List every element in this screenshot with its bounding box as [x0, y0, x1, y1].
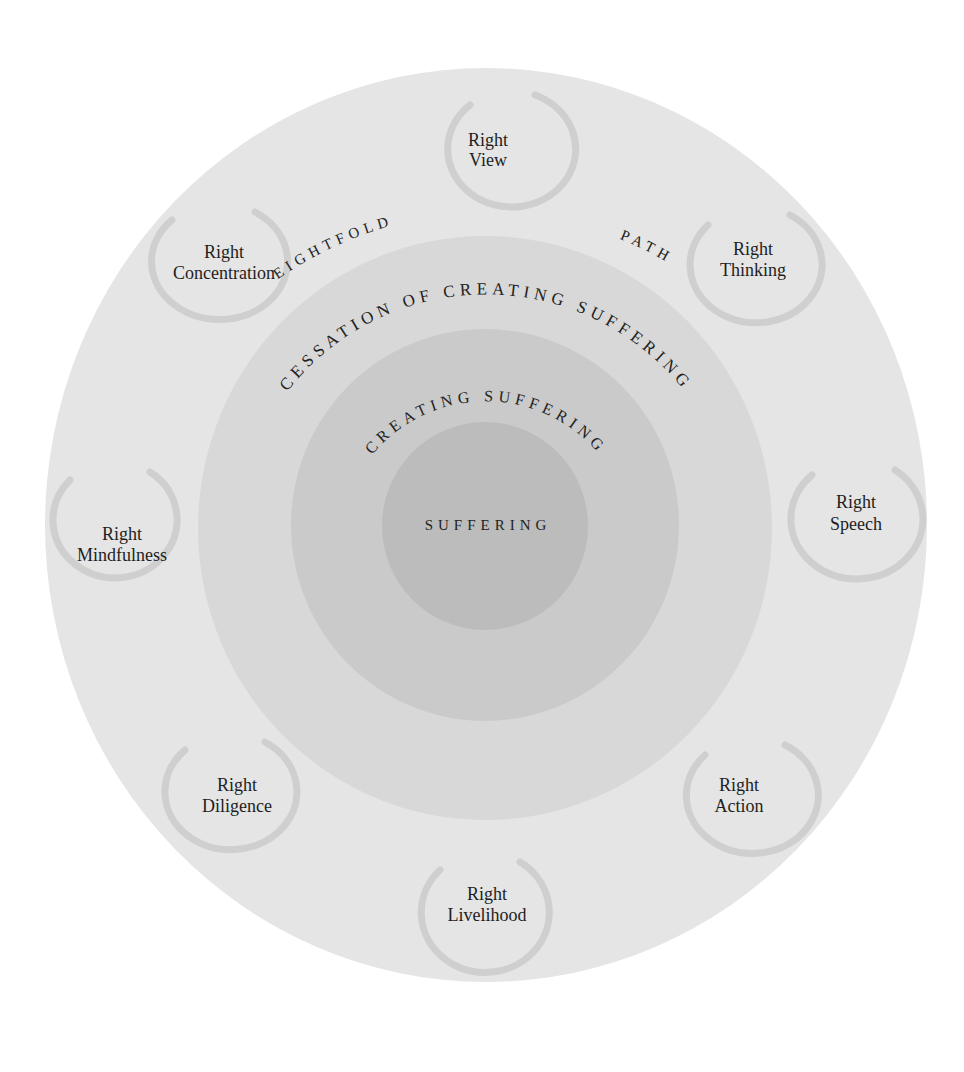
svg-text:Livelihood: Livelihood — [448, 905, 527, 925]
svg-text:View: View — [469, 150, 507, 170]
svg-text:Right: Right — [102, 524, 142, 544]
svg-text:Diligence: Diligence — [202, 796, 272, 816]
svg-text:Concentration: Concentration — [173, 263, 275, 283]
svg-text:Right: Right — [719, 775, 759, 795]
svg-text:Mindfulness: Mindfulness — [77, 545, 167, 565]
eightfold-path-diagram: EIGHTFOLD PATH CESSATION OF CREATING SUF… — [0, 0, 964, 1072]
center-label-suffering: SUFFERING — [425, 517, 552, 533]
svg-text:Right: Right — [733, 239, 773, 259]
svg-text:Right: Right — [217, 775, 257, 795]
svg-text:Action: Action — [715, 796, 764, 816]
item-right-view: Right View — [468, 130, 508, 170]
svg-text:Right: Right — [468, 130, 508, 150]
svg-text:Right: Right — [467, 884, 507, 904]
svg-text:Thinking: Thinking — [720, 260, 786, 280]
svg-text:Right: Right — [204, 242, 244, 262]
svg-text:Right: Right — [836, 492, 876, 512]
svg-text:Speech: Speech — [830, 514, 882, 534]
item-right-action: Right Action — [715, 775, 764, 816]
